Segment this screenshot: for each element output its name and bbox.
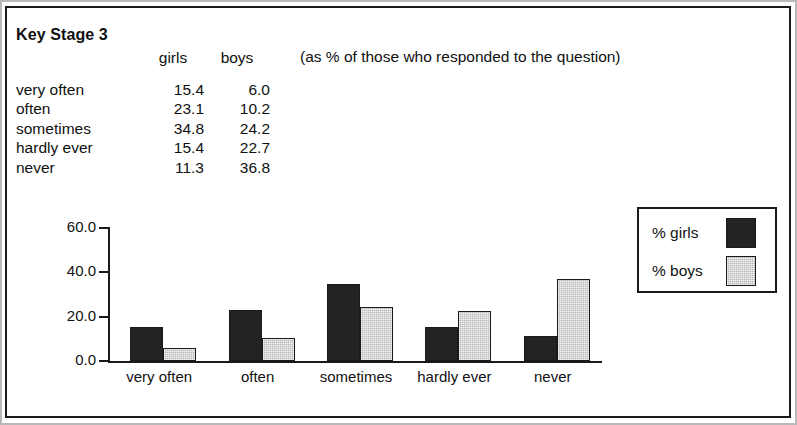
row-value-girls: 15.4 [142,80,204,100]
row-value-boys: 36.8 [204,158,270,178]
column-header-blank [16,48,142,68]
legend-item-girls: % girls [639,215,779,251]
row-value-boys: 22.7 [204,138,270,158]
percentage-note: (as % of those who responded to the ques… [300,48,621,66]
data-table: girls boys very often 15.4 6.0 often 23.… [16,48,270,177]
page-title: Key Stage 3 [16,26,108,44]
scanned-chart-page: Key Stage 3 girls boys very often 15.4 6… [0,0,797,425]
legend-item-boys: % boys [639,253,779,289]
column-header-boys: boys [204,48,270,68]
row-value-boys: 24.2 [204,119,270,139]
row-value-girls: 11.3 [142,158,204,178]
row-value-girls: 23.1 [142,99,204,119]
row-label: never [16,158,142,178]
column-header-girls: girls [142,48,204,68]
table-row: very often 15.4 6.0 [16,80,270,100]
row-label: often [16,99,142,119]
row-label: hardly ever [16,138,142,158]
row-value-girls: 34.8 [142,119,204,139]
table-row: never 11.3 36.8 [16,158,270,178]
row-value-boys: 6.0 [204,80,270,100]
table-row: hardly ever 15.4 22.7 [16,138,270,158]
row-value-girls: 15.4 [142,138,204,158]
legend-label-boys: % boys [652,262,726,280]
table-header-row: girls boys [16,48,270,68]
legend-swatch-boys-icon [726,256,756,286]
legend-label-girls: % girls [652,224,726,242]
row-label: sometimes [16,119,142,139]
legend-swatch-girls-icon [726,218,756,248]
chart-legend: % girls % boys [637,207,777,293]
row-label: very often [16,80,142,100]
table-row: sometimes 34.8 24.2 [16,119,270,139]
table-row: often 23.1 10.2 [16,99,270,119]
table-spacer-row [16,68,270,80]
row-value-boys: 10.2 [204,99,270,119]
